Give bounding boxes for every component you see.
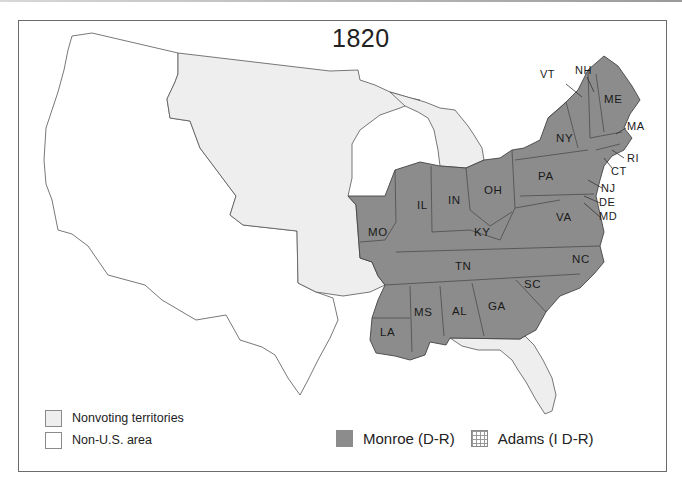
map-title: 1820	[332, 24, 390, 53]
label-sc: SC	[524, 278, 541, 290]
label-al: AL	[452, 305, 467, 317]
label-pa: PA	[538, 170, 554, 182]
legend-item-non-us: Non-U.S. area	[45, 429, 184, 451]
legend-item-nonvoting: Nonvoting territories	[45, 407, 184, 429]
label-ri: RI	[627, 152, 639, 164]
legend-label-monroe: Monroe (D-R)	[363, 430, 455, 447]
label-va: VA	[556, 211, 572, 223]
label-nc: NC	[572, 253, 590, 265]
adams-hatched-swatch	[471, 430, 488, 447]
label-mo: MO	[368, 226, 388, 238]
label-md: MD	[599, 210, 617, 222]
label-ga: GA	[488, 300, 506, 312]
label-oh: OH	[484, 184, 502, 196]
label-nj: NJ	[601, 182, 615, 194]
label-ma: MA	[627, 120, 645, 132]
label-me: ME	[604, 93, 622, 105]
label-de: DE	[599, 196, 615, 208]
label-ky: KY	[474, 226, 491, 238]
label-tn: TN	[455, 260, 472, 272]
legend-candidates: Monroe (D-R) Adams (I D-R)	[336, 430, 594, 447]
label-vt: VT	[540, 68, 555, 80]
label-ms: MS	[414, 306, 432, 318]
label-il: IL	[417, 199, 428, 211]
nonvoting-swatch	[45, 410, 62, 427]
legend-secondary: Nonvoting territories Non-U.S. area	[45, 407, 184, 451]
monroe-swatch	[336, 430, 353, 447]
label-nh: NH	[575, 64, 592, 76]
non-us-swatch	[45, 432, 62, 449]
nonvoting-territory-michigan	[390, 92, 484, 168]
legend-label-nonvoting: Nonvoting territories	[72, 411, 184, 425]
legend-label-adams: Adams (I D-R)	[498, 430, 594, 447]
label-ny: NY	[556, 132, 573, 144]
label-ct: CT	[611, 165, 627, 177]
nonvoting-territory-florida	[450, 336, 556, 414]
label-in: IN	[448, 194, 461, 206]
label-la: LA	[380, 326, 395, 338]
legend-label-non-us: Non-U.S. area	[72, 433, 152, 447]
